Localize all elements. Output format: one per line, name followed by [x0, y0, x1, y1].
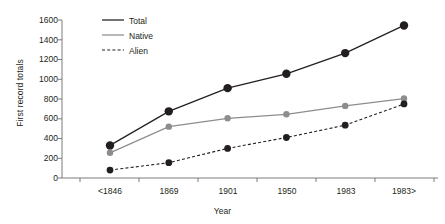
- data-point: [107, 150, 113, 156]
- data-point: [224, 115, 230, 121]
- data-point: [107, 167, 114, 174]
- data-point: [224, 145, 231, 152]
- series-line-total: [110, 25, 404, 145]
- data-point: [400, 21, 408, 29]
- x-axis-ticks: [80, 178, 434, 182]
- data-point: [401, 101, 408, 108]
- series-native: [107, 95, 407, 156]
- data-point: [341, 49, 349, 57]
- data-point: [342, 103, 348, 109]
- data-point: [283, 134, 290, 141]
- data-point: [165, 107, 173, 115]
- data-point: [342, 122, 349, 129]
- series-line-alien: [110, 104, 404, 170]
- series-alien: [107, 101, 408, 174]
- series-line-native: [110, 99, 404, 153]
- series-total: [106, 21, 408, 149]
- legend-swatches: [102, 20, 124, 50]
- chart-figure: First record totals Year 1600 1400 1200 …: [0, 0, 445, 224]
- data-point: [282, 70, 290, 78]
- axis-lines: [62, 20, 438, 178]
- data-point: [223, 84, 231, 92]
- data-point: [165, 159, 172, 166]
- data-point: [106, 141, 114, 149]
- plot-area: [0, 0, 445, 224]
- data-point: [166, 123, 172, 129]
- y-axis-ticks: [58, 20, 62, 178]
- data-point: [283, 111, 289, 117]
